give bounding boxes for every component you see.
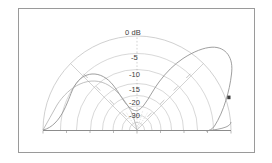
baseline-ticks: [43, 131, 231, 134]
polar-plot: [0, 0, 272, 163]
pattern-marker: [227, 96, 230, 100]
radial-tick-label-minus5: -5: [131, 54, 138, 62]
radial-tick-label-minus20: -20: [129, 99, 140, 107]
pattern-inner-lobe: [43, 81, 137, 130]
radial-tick-label-0db: 0 dB: [125, 29, 141, 37]
radial-tick-label-minus30: -30: [129, 112, 140, 120]
figure-container: 0 dB -5 -10 -15 -20 -30: [0, 0, 272, 163]
radial-tick-label-minus15: -15: [129, 86, 140, 94]
radial-tick-label-minus10: -10: [129, 71, 140, 79]
pattern-curve-tail: [206, 122, 231, 131]
